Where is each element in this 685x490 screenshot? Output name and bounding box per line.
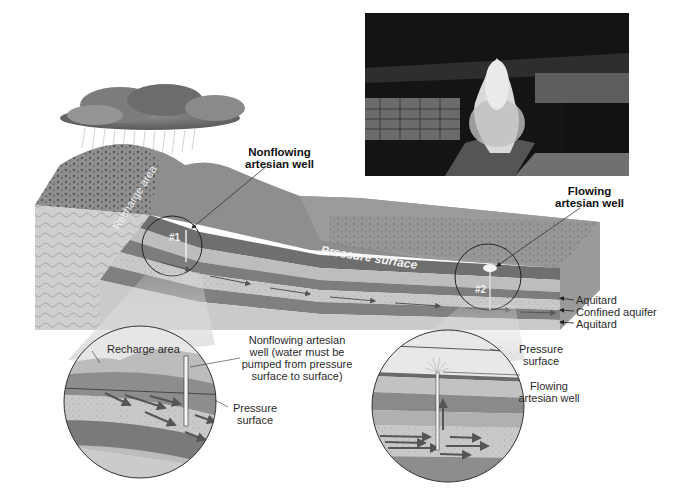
label-line: surface <box>516 355 566 367</box>
inset-right-pressure-label: Pressure surface <box>516 343 566 367</box>
label-line: pumped from pressure <box>232 358 362 370</box>
well-1-tag: #1 <box>169 232 180 243</box>
inset-right-well-label: Flowing artesian well <box>514 380 584 404</box>
inset-left-well-label: Nonflowing artesian well (water must be … <box>232 334 362 382</box>
flowing-well-callout: Flowing artesian well <box>555 185 624 209</box>
callout-line: Flowing <box>555 185 624 197</box>
label-line: surface <box>230 414 280 426</box>
flowing-well-photo <box>365 13 629 176</box>
layer-label-aquitard-lower: Aquitard <box>576 318 617 330</box>
label-line: Pressure <box>516 343 566 355</box>
inset-left-recharge-label: Recharge area <box>107 343 180 355</box>
layer-label-aquitard-upper: Aquitard <box>576 294 617 306</box>
callout-line: artesian well <box>245 158 314 170</box>
label-line: Pressure <box>230 402 280 414</box>
inset-left-pressure-label: Pressure surface <box>230 402 280 426</box>
callout-line: artesian well <box>555 197 624 209</box>
label-line: Nonflowing artesian <box>232 334 362 346</box>
layer-label-confined-aquifer: Confined aquifer <box>576 306 657 318</box>
nonflowing-well-callout: Nonflowing artesian well <box>245 146 314 170</box>
cloud-icon <box>60 84 245 130</box>
fountain-icon <box>483 264 497 272</box>
label-line: well (water must be <box>232 346 362 358</box>
well-2-tag: #2 <box>475 284 486 295</box>
label-line: Flowing <box>514 380 584 392</box>
callout-line: Nonflowing <box>245 146 314 158</box>
label-line: surface to surface) <box>232 370 362 382</box>
label-line: artesian well <box>514 392 584 404</box>
